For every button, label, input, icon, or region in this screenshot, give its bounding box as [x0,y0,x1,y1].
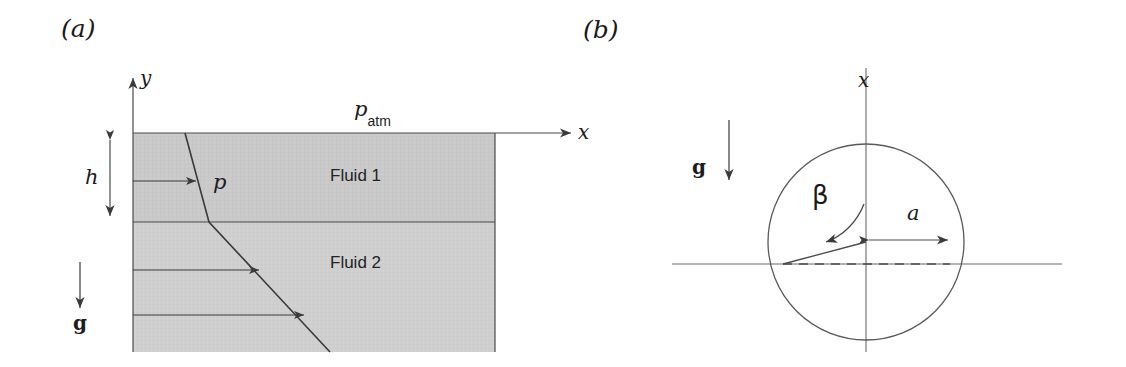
gravity-label-panel-b: g [692,157,706,177]
fluid-1-region [133,133,495,222]
fluid-1-label: Fluid 1 [330,167,381,184]
p-atm-label: patm [333,78,391,144]
figure-root: (a) y x patm h p g Fluid 1 Fluid 2 (b) x… [0,0,1126,367]
depth-h-label: h [85,167,99,188]
x-axis-label-panel-b: x [858,70,869,90]
panel-b-tag: (b) [583,17,619,42]
p-atm-symbol: p [354,97,367,121]
panel-a-graphics [80,78,571,352]
beta-angle-label: β [812,182,829,208]
y-axis-label: y [140,68,151,88]
gravity-label-panel-a: g [73,313,87,333]
x-axis-label-panel-a: x [578,122,589,142]
beta-angle-arc-arrow [826,204,864,242]
radial-line-beta [783,242,866,264]
panel-b-graphics [672,68,1062,352]
radius-a-label: a [907,203,920,224]
figure-canvas [0,0,1126,367]
p-atm-subscript: atm [367,113,390,129]
fluid-2-region [133,222,495,352]
pressure-p-label: p [213,172,226,193]
panel-a-tag: (a) [61,16,95,41]
fluid-2-label: Fluid 2 [330,254,381,271]
